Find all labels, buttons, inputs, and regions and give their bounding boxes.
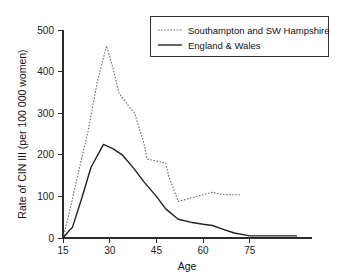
legend-label-england-wales: England & Wales xyxy=(188,40,261,51)
x-tick-label-30: 30 xyxy=(104,245,116,256)
series-line-england-and-wales xyxy=(63,144,297,238)
x-tick-label-15: 15 xyxy=(57,245,69,256)
y-axis-title: Rate of CIN III (per 100 000 women) xyxy=(16,49,28,218)
y-tick-label-200: 200 xyxy=(37,149,54,160)
series-line-southampton-and-sw-hampshire xyxy=(63,46,240,238)
x-tick-label-45: 45 xyxy=(151,245,163,256)
y-tick-label-300: 300 xyxy=(37,108,54,119)
chart-legend: Southampton and SW Hampshire England & W… xyxy=(150,16,330,56)
x-axis-ticks xyxy=(63,238,250,243)
y-tick-label-100: 100 xyxy=(37,191,54,202)
x-tick-label-60: 60 xyxy=(198,245,210,256)
line-chart: 0 100 200 300 400 500 15 30 45 60 75 Age… xyxy=(0,0,344,277)
chart-figure: 0 100 200 300 400 500 15 30 45 60 75 Age… xyxy=(0,0,344,277)
y-axis-ticks xyxy=(58,30,63,238)
y-tick-label-500: 500 xyxy=(37,25,54,36)
x-tick-label-75: 75 xyxy=(244,245,256,256)
x-axis-title: Age xyxy=(178,260,197,272)
legend-label-southampton: Southampton and SW Hampshire xyxy=(188,25,330,36)
y-tick-label-0: 0 xyxy=(48,233,54,244)
y-tick-label-400: 400 xyxy=(37,66,54,77)
